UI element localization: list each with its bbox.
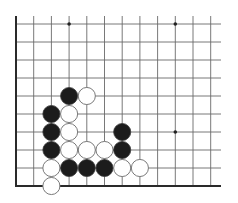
white-stone (131, 159, 148, 176)
black-stone (114, 123, 131, 140)
white-stone (43, 177, 60, 194)
white-stone (114, 159, 131, 176)
black-stone (114, 141, 131, 158)
star-point-icon (67, 22, 71, 26)
white-stone (78, 141, 95, 158)
black-stone (43, 123, 60, 140)
stones (43, 87, 149, 194)
star-point-icon (174, 130, 178, 134)
black-stone (78, 159, 95, 176)
white-stone (78, 87, 95, 104)
white-stone (96, 141, 113, 158)
white-stone (61, 141, 78, 158)
white-stone (61, 105, 78, 122)
black-stone (61, 87, 78, 104)
black-stone (96, 159, 113, 176)
black-stone (61, 159, 78, 176)
star-point-icon (174, 22, 178, 26)
go-board-diagram (0, 0, 238, 203)
white-stone (43, 159, 60, 176)
white-stone (61, 123, 78, 140)
black-stone (43, 141, 60, 158)
black-stone (43, 105, 60, 122)
